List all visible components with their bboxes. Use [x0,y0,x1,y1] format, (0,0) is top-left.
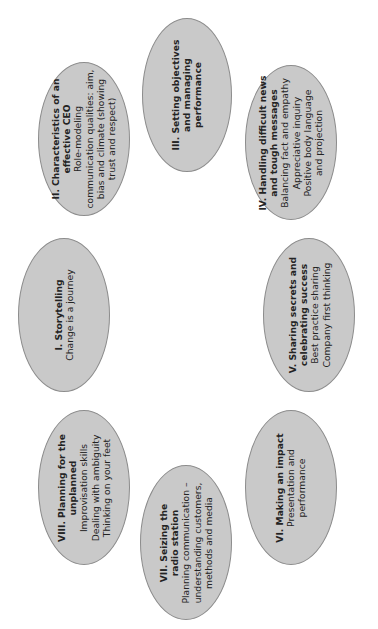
node-vii-title: radio station [169,482,180,603]
node-viii-body: Dealing with ambiguity [90,434,101,542]
node-vi-body: Presentation and [285,433,296,542]
node-viii-title: unplanned [67,434,78,542]
node-iv-body: Balancing fact and empathy [280,75,291,210]
node-v-title: celebrating success [298,257,309,373]
node-viii-body: Thinking on your feet [101,434,112,542]
node-ii-body: trust and respect) [106,69,117,208]
node-vi-body: performance [297,433,308,542]
node-v-body: Company first thinking [320,257,331,373]
node-vii-title: VII. Seizing the [158,482,169,603]
node-vi-making-an-impact: VI. Making an impact Presentation and pe… [245,410,337,565]
node-ii-title: effective CEO [62,69,73,208]
node-iv-body: and projection [313,75,324,210]
node-viii-planning-unplanned: VIII. Planning for the unplanned Improvi… [38,410,130,565]
node-vi-label: VI. Making an impact Presentation and pe… [274,433,308,542]
node-v-body: Best practice sharing [309,257,320,373]
node-i-label: I. Storytelling Change is a journey [53,269,75,360]
node-viii-body: Improvisation skills [78,434,89,542]
node-ii-label: II. Characteristics of an effective CEO … [50,69,117,208]
node-iii-setting-objectives: III. Setting objectives and managing per… [142,18,232,172]
node-iii-title: performance [193,40,204,151]
node-i-title: I. Storytelling [53,269,64,360]
node-iv-handling-difficult-news: IV. Handling difficult news and tough me… [245,65,337,220]
node-v-sharing-secrets: V. Sharing secrets and celebrating succe… [263,238,355,392]
node-viii-title: VIII. Planning for the [56,434,67,542]
node-ii-body: communication qualities: aim, [84,69,95,208]
node-i-storytelling: I. Storytelling Change is a journey [18,238,110,392]
node-iii-title: and managing [181,40,192,151]
node-ii-body: Role-modeling [73,69,84,208]
node-v-label: V. Sharing secrets and celebrating succe… [287,257,332,373]
node-iv-title: IV. Handling difficult news [257,75,268,210]
node-vii-body: Planning communication – [180,482,191,603]
node-iii-label: III. Setting objectives and managing per… [170,40,204,151]
node-v-title: V. Sharing secrets and [287,257,298,373]
node-i-body: Change is a journey [64,269,75,360]
node-ii-body: bias and climate (showing [95,69,106,208]
node-vii-seizing-radio-station: VII. Seizing the radio station Planning … [140,465,232,620]
node-vi-title: VI. Making an impact [274,433,285,542]
node-iv-title: and tough messages [269,75,280,210]
node-vii-body: understanding customers, [192,482,203,603]
node-iv-body: Positive body language [302,75,313,210]
node-iv-label: IV. Handling difficult news and tough me… [257,75,324,210]
node-ii-characteristics: II. Characteristics of an effective CEO … [38,62,130,216]
node-viii-label: VIII. Planning for the unplanned Improvi… [56,434,112,542]
node-ii-title: II. Characteristics of an [50,69,61,208]
node-iv-body: Appreciative inquiry [291,75,302,210]
node-vii-label: VII. Seizing the radio station Planning … [158,482,214,603]
node-vii-body: methods and media [203,482,214,603]
node-iii-title: III. Setting objectives [170,40,181,151]
